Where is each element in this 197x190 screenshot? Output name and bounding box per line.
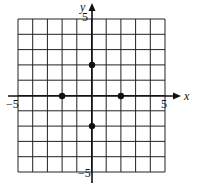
x-axis-label: x — [183, 89, 190, 103]
axes — [8, 3, 181, 183]
data-point — [89, 62, 95, 68]
coordinate-plane: x y −5 5 5 −5 — [0, 0, 197, 190]
x-max-tick-label: 5 — [161, 97, 167, 111]
y-axis-arrow-icon — [89, 3, 96, 11]
data-point — [59, 93, 65, 99]
y-min-tick-label: −5 — [78, 166, 91, 180]
y-max-tick-label: 5 — [82, 10, 88, 24]
x-axis-arrow-icon — [173, 93, 181, 100]
x-min-tick-label: −5 — [6, 97, 19, 111]
data-point — [118, 93, 124, 99]
data-point — [89, 123, 95, 129]
